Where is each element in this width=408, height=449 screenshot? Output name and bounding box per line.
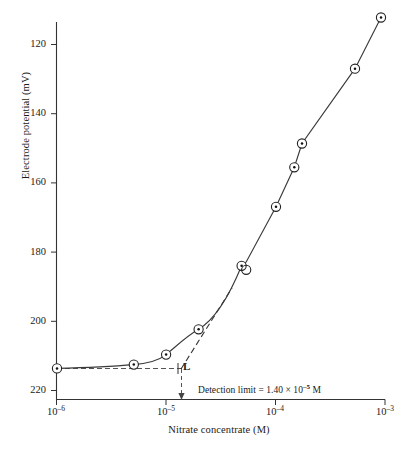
y-tick-label-200: 200 [12,315,46,326]
y-tick-label-220: 220 [12,384,46,395]
data-point [350,64,359,73]
x-tick-mantissa: 10 [376,406,387,417]
x-tick-exponent: –5 [168,404,176,413]
detection-limit-exponent: –5 [303,383,310,391]
calibration-curve [57,18,381,369]
x-tick-exponent: –6 [58,404,66,413]
data-point [290,163,299,172]
data-point [129,360,138,369]
data-point-markers [52,13,385,373]
y-tick-label-180: 180 [12,246,46,257]
data-point [194,325,203,334]
x-tick-exponent: –3 [387,404,395,413]
data-point [271,202,280,211]
x-axis-ticks [57,400,386,406]
y-axis-ticks [51,45,57,391]
x-axis-title: Nitrate concentrate (M) [56,424,382,435]
x-tick-mantissa: 10 [157,406,168,417]
data-point [52,364,61,373]
chart-plot-area [0,0,408,449]
x-tick-mantissa: 10 [47,406,58,417]
data-point [297,139,306,148]
detection-limit-prefix: Detection limit = 1.40 × 10 [198,385,303,395]
limit-marker-label: L [183,360,190,372]
x-tick-mantissa: 10 [266,406,277,417]
x-tick-label-1e-5: 10–5 [143,406,189,417]
chart-figure: 120 140 160 180 200 220 10–6 10–5 10–4 1… [0,0,408,449]
detection-limit-suffix: M [310,385,321,395]
x-tick-label-1e-3: 10–3 [362,406,408,417]
y-axis-title: Electrode potential (mV) [20,41,31,211]
x-tick-exponent: –4 [277,404,285,413]
data-point [376,13,385,22]
detection-limit-text: Detection limit = 1.40 × 10–5 M [198,385,321,395]
x-tick-label-1e-4: 10–4 [252,406,298,417]
x-tick-label-1e-6: 10–6 [33,406,79,417]
data-point [162,350,171,359]
